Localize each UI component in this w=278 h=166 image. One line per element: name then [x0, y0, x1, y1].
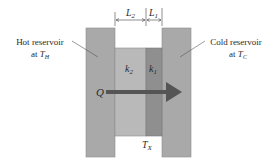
cold-reservoir-temp: at TC	[229, 49, 248, 60]
dimension-label-l2: L2	[125, 7, 136, 20]
thermal-conduction-diagram: L2 L1 Hot reservoir at TH Cold reservoir…	[0, 0, 278, 166]
heat-flow-label: Q	[96, 86, 104, 98]
hot-reservoir-label: Hot reservoir	[16, 37, 64, 47]
cold-reservoir-label: Cold reservoir	[210, 37, 262, 47]
dimension-label-l1: L1	[148, 7, 158, 20]
interface-temp-label: TX	[142, 139, 153, 152]
hot-reservoir-temp: at TH	[31, 49, 50, 60]
